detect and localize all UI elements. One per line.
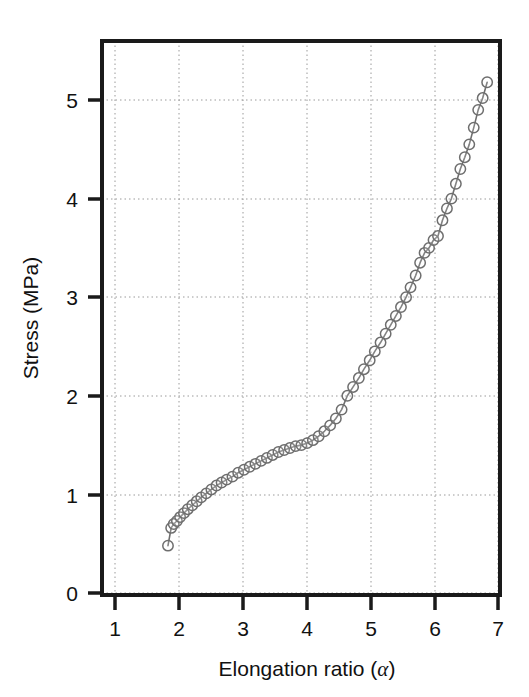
x-tick-label-3: 3 — [237, 617, 249, 640]
data-point-marker — [442, 203, 452, 213]
x-tick-label-7: 7 — [492, 617, 504, 640]
data-point-marker — [477, 93, 487, 103]
data-point-marker — [464, 139, 474, 149]
data-point-marker — [460, 152, 470, 162]
data-point-marker — [396, 302, 406, 312]
x-axis-title-prefix: Elongation ratio ( — [219, 657, 378, 680]
stress-elongation-chart: 1 2 3 4 5 6 7 0 1 2 3 4 5 Elongation rat… — [0, 0, 529, 697]
x-tick-label-6: 6 — [429, 617, 441, 640]
y-axis-title: Stress (MPa) — [19, 257, 42, 380]
plot-area-background — [102, 41, 500, 595]
y-tick-label-4: 4 — [66, 188, 78, 211]
data-point-marker — [446, 193, 456, 203]
y-tick-label-1: 1 — [66, 484, 78, 507]
data-point-marker — [405, 282, 415, 292]
x-tick-label-1: 1 — [109, 617, 121, 640]
data-point-marker — [410, 270, 420, 280]
x-tick-label-4: 4 — [301, 617, 313, 640]
data-point-marker — [482, 77, 492, 87]
data-point-marker — [163, 540, 173, 550]
y-tick-label-3: 3 — [66, 286, 78, 309]
data-point-marker — [336, 404, 346, 414]
x-tick-label-2: 2 — [173, 617, 185, 640]
data-point-marker — [433, 231, 443, 241]
x-tick-label-5: 5 — [365, 617, 377, 640]
y-tick-label-5: 5 — [66, 89, 78, 112]
data-point-marker — [473, 105, 483, 115]
x-axis-title-suffix: ) — [388, 657, 395, 680]
data-point-marker — [401, 292, 411, 302]
data-point-marker — [451, 179, 461, 189]
data-point-marker — [455, 164, 465, 174]
data-point-marker — [415, 257, 425, 267]
data-point-marker — [437, 215, 447, 225]
x-axis-title: Elongation ratio (α) — [219, 657, 396, 681]
data-point-marker — [469, 122, 479, 132]
y-tick-label-2: 2 — [66, 385, 78, 408]
y-tick-label-0: 0 — [66, 582, 78, 605]
